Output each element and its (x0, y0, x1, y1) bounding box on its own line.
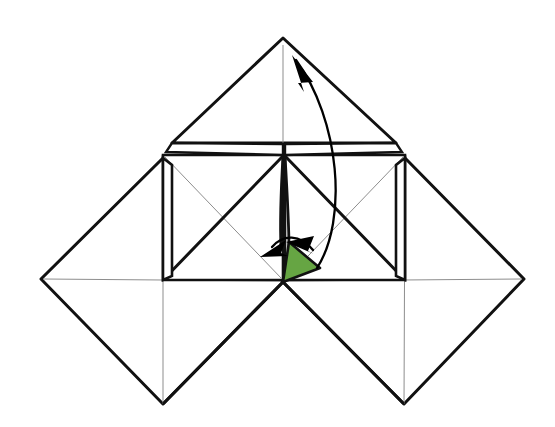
left-edge-sliver (163, 158, 172, 280)
diagram-canvas (0, 0, 555, 427)
right-edge-sliver (396, 158, 405, 280)
center-square-band (163, 155, 405, 280)
upper-right-flap-sliver (285, 143, 402, 155)
upper-left-flap-sliver (166, 143, 283, 155)
geometry-figure (0, 0, 555, 427)
upper-base-flaps (166, 143, 402, 155)
